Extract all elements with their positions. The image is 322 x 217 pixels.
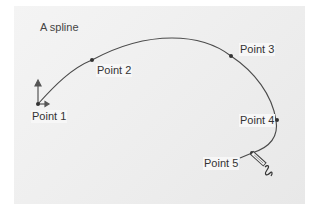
point-2-label: Point 2 [96,64,132,77]
diagram-title: A spline [40,21,79,33]
pen-tool-cursor-icon [251,152,272,176]
point-4-marker[interactable] [275,118,279,122]
point-1-marker[interactable] [36,102,40,106]
point-3-marker[interactable] [229,54,233,58]
point-4-label: Point 4 [239,114,275,127]
spline-curve [38,38,276,158]
point-5-label: Point 5 [203,157,239,170]
point-3-label: Point 3 [239,43,275,56]
point-2-marker[interactable] [90,58,94,62]
point-1-label: Point 1 [31,110,67,123]
